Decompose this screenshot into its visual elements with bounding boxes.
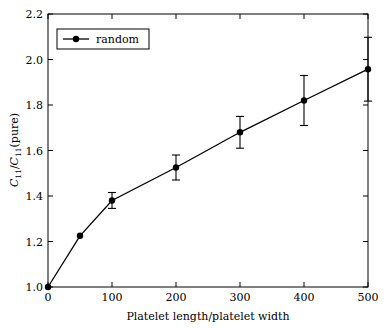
y-tick-label: 2.2	[26, 8, 44, 21]
legend[interactable]: random	[57, 29, 149, 49]
data-point	[301, 97, 307, 103]
data-point	[237, 129, 243, 135]
y-tick-label: 1.2	[26, 236, 44, 249]
x-tick-label: 100	[102, 291, 123, 304]
y-title-sub2: 11	[14, 147, 23, 157]
y-axis-title: C11/C11(pure)	[8, 113, 23, 187]
data-point	[77, 233, 83, 239]
x-tick-label: 500	[358, 291, 379, 304]
x-tick-label: 300	[230, 291, 251, 304]
x-axis-title: Platelet length/platelet width	[126, 310, 289, 323]
y-title-sub1: 11	[14, 169, 23, 179]
series-markers-random	[45, 66, 371, 290]
x-tick-label: 0	[45, 291, 52, 304]
svg-text:C11/C11(pure): C11/C11(pure)	[8, 113, 23, 187]
chart-figure: 1.0 1.2 1.4 1.6 1.8 2.0 2.2 0 100	[0, 0, 391, 328]
y-tick-label: 2.0	[26, 54, 44, 67]
data-point	[173, 164, 179, 170]
legend-label-random: random	[96, 33, 140, 46]
y-axis-tick-labels: 1.0 1.2 1.4 1.6 1.8 2.0 2.2	[26, 8, 44, 294]
data-point	[45, 284, 51, 290]
x-tick-label: 400	[294, 291, 315, 304]
chart-plot-area: 1.0 1.2 1.4 1.6 1.8 2.0 2.2 0 100	[0, 0, 391, 328]
y-tick-label: 1.8	[26, 99, 44, 112]
y-tick-label: 1.4	[26, 190, 44, 203]
series-line-random	[48, 69, 368, 287]
y-tick-label: 1.6	[26, 145, 44, 158]
data-point	[365, 66, 371, 72]
x-tick-label: 200	[166, 291, 187, 304]
x-axis-tick-labels: 0 100 200 300 400 500	[45, 291, 379, 304]
data-point	[109, 197, 115, 203]
y-title-suffix: (pure)	[8, 113, 21, 147]
y-tick-label: 1.0	[26, 281, 44, 294]
